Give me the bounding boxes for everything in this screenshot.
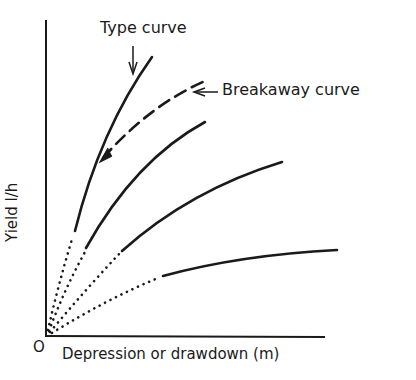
curve-4 bbox=[163, 250, 337, 276]
type-curve-label: Type curve bbox=[100, 18, 187, 37]
curve-3 bbox=[122, 162, 282, 251]
x-axis-label: Depression or drawdown (m) bbox=[62, 345, 279, 363]
breakaway-curve-label: Breakaway curve bbox=[222, 80, 360, 99]
y-axis-label: Yield l/h bbox=[3, 183, 21, 242]
curve-3-dotted bbox=[50, 253, 120, 332]
x-axis bbox=[45, 336, 325, 337]
curve-2-dotted bbox=[49, 252, 85, 331]
yield-drawdown-diagram bbox=[0, 0, 416, 380]
origin-label: O bbox=[33, 338, 45, 356]
breakaway-curve bbox=[103, 81, 205, 158]
type-curve-dotted bbox=[48, 236, 73, 330]
